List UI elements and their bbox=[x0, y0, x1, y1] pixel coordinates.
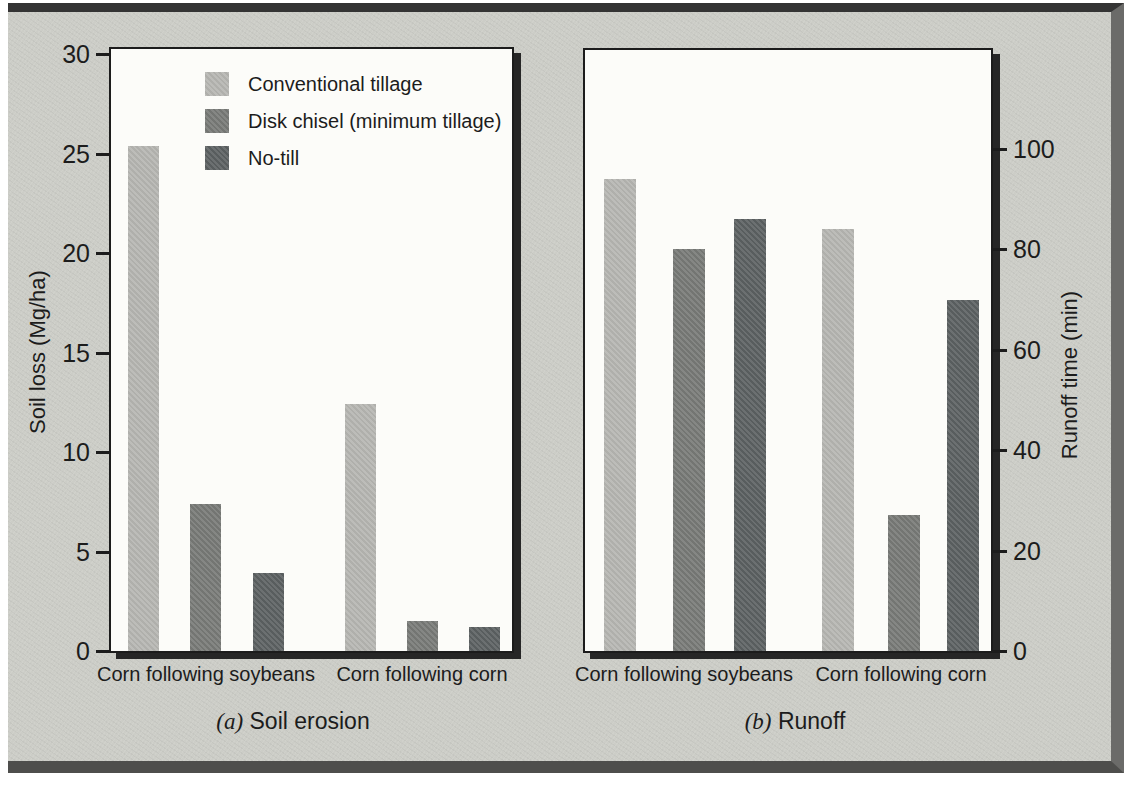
legend-swatch-icon bbox=[205, 109, 229, 133]
soil-erosion-y-tick-10 bbox=[96, 451, 109, 454]
soil-erosion-y-tick-5 bbox=[96, 551, 109, 554]
runoff-y-tick-label-80: 80 bbox=[1013, 235, 1083, 263]
soil-erosion-caption-text: Soil erosion bbox=[250, 708, 370, 734]
soil-erosion-bar-conventional-tillage-1 bbox=[345, 404, 376, 651]
soil-erosion-bar-no-till-0 bbox=[253, 573, 284, 651]
runoff-y-tick-60 bbox=[993, 349, 1007, 352]
runoff-caption-prefix: (b) bbox=[745, 709, 772, 734]
soil-erosion-y-tick-label-25: 25 bbox=[34, 140, 90, 168]
runoff-bar-no-till-0 bbox=[734, 219, 766, 651]
legend-swatch-icon bbox=[205, 146, 229, 170]
runoff-y-tick-label-0: 0 bbox=[1013, 637, 1083, 665]
soil-erosion-y-tick-label-15: 15 bbox=[34, 339, 90, 367]
runoff-y-tick-40 bbox=[993, 449, 1007, 452]
legend-item-0: Conventional tillage bbox=[205, 72, 501, 96]
runoff-y-tick-0 bbox=[993, 650, 1007, 653]
legend-label: Conventional tillage bbox=[248, 72, 423, 96]
runoff-plot-area bbox=[583, 48, 993, 653]
soil-erosion-category-label-1: Corn following corn bbox=[282, 662, 562, 686]
runoff-bar-conventional-tillage-0 bbox=[604, 179, 636, 651]
soil-erosion-y-tick-label-5: 5 bbox=[34, 538, 90, 566]
runoff-bar-disk-chisel-minimum-tillage-1 bbox=[888, 515, 920, 651]
runoff-caption-text: Runoff bbox=[778, 708, 845, 734]
soil-erosion-y-tick-30 bbox=[96, 53, 109, 56]
legend-item-1: Disk chisel (minimum tillage) bbox=[205, 109, 501, 133]
runoff-y-axis-label: Runoff time (min) bbox=[1057, 225, 1083, 525]
legend-item-2: No-till bbox=[205, 146, 501, 170]
runoff-category-label-1: Corn following corn bbox=[761, 662, 1041, 686]
runoff-y-tick-20 bbox=[993, 550, 1007, 553]
legend-label: Disk chisel (minimum tillage) bbox=[248, 109, 501, 133]
soil-erosion-y-tick-label-0: 0 bbox=[34, 637, 90, 665]
runoff-bar-no-till-1 bbox=[947, 300, 979, 651]
soil-erosion-y-tick-25 bbox=[96, 153, 109, 156]
runoff-y-tick-label-20: 20 bbox=[1013, 537, 1083, 565]
runoff-bar-disk-chisel-minimum-tillage-0 bbox=[673, 249, 705, 651]
figure: Soil loss (Mg/ha) Runoff time (min) (a) … bbox=[0, 0, 1132, 787]
soil-erosion-bar-conventional-tillage-0 bbox=[128, 146, 159, 651]
legend-label: No-till bbox=[248, 146, 299, 170]
soil-erosion-caption-prefix: (a) bbox=[216, 709, 243, 734]
soil-erosion-y-tick-15 bbox=[96, 352, 109, 355]
soil-erosion-y-tick-label-10: 10 bbox=[34, 438, 90, 466]
soil-erosion-y-tick-label-20: 20 bbox=[34, 239, 90, 267]
runoff-caption: (b) Runoff bbox=[595, 708, 995, 735]
runoff-y-tick-label-60: 60 bbox=[1013, 336, 1083, 364]
runoff-y-tick-80 bbox=[993, 248, 1007, 251]
soil-erosion-y-tick-20 bbox=[96, 252, 109, 255]
soil-erosion-caption: (a) Soil erosion bbox=[93, 708, 493, 735]
soil-erosion-bar-no-till-1 bbox=[469, 627, 500, 651]
runoff-y-tick-100 bbox=[993, 148, 1007, 151]
soil-erosion-bar-disk-chisel-minimum-tillage-0 bbox=[190, 504, 221, 651]
soil-erosion-y-tick-label-30: 30 bbox=[34, 40, 90, 68]
soil-erosion-y-tick-0 bbox=[96, 650, 109, 653]
soil-erosion-bar-disk-chisel-minimum-tillage-1 bbox=[407, 621, 438, 651]
runoff-y-tick-label-40: 40 bbox=[1013, 436, 1083, 464]
runoff-bar-conventional-tillage-1 bbox=[822, 229, 854, 651]
legend-swatch-icon bbox=[205, 72, 229, 96]
legend: Conventional tillageDisk chisel (minimum… bbox=[205, 72, 501, 183]
runoff-y-tick-label-100: 100 bbox=[1013, 135, 1083, 163]
